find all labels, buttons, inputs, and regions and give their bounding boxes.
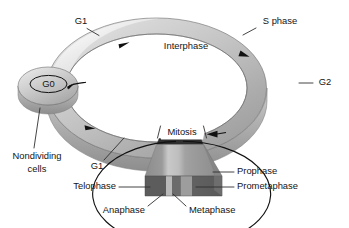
label-telophase-group: Telophase — [73, 180, 150, 191]
cycle-arrowhead-top-left — [119, 42, 130, 48]
label-g1-top: G1 — [75, 15, 88, 26]
leader-nondividing — [34, 108, 40, 148]
g0-satellite — [18, 67, 78, 114]
label-g2-group: G2 — [299, 76, 331, 87]
mitosis-label: Mitosis — [167, 126, 196, 137]
label-anaphase-group: Anaphase — [103, 194, 163, 215]
mitosis-label-group: Mitosis — [158, 125, 207, 140]
label-nondividing-line2: cells — [28, 163, 47, 174]
label-anaphase: Anaphase — [103, 204, 145, 215]
label-nondividing-line1: Nondividing — [13, 150, 62, 161]
label-s-phase: S phase — [263, 15, 297, 26]
label-g1-bottom: G1 — [91, 160, 104, 171]
mitosis-wedge-face — [145, 176, 222, 196]
label-prophase-group: Prophase — [213, 165, 277, 176]
label-prometaphase: Prometaphase — [237, 180, 298, 191]
label-metaphase-group: Metaphase — [173, 194, 235, 215]
ring-top-surface — [46, 18, 266, 158]
interphase-label: Interphase — [164, 40, 208, 51]
g0-label: G0 — [42, 78, 55, 89]
ring-inner-edge — [66, 34, 247, 142]
label-prophase: Prophase — [237, 165, 277, 176]
label-metaphase: Metaphase — [189, 204, 235, 215]
cell-cycle-diagram: Mitosis Interphase G0 G1 S phase G2 G1 — [0, 0, 349, 228]
label-telophase: Telophase — [73, 180, 116, 191]
label-s-phase-group: S phase — [243, 15, 297, 35]
leader-s-phase — [243, 28, 256, 35]
label-g2: G2 — [319, 76, 332, 87]
cell-cycle-figure: Mitosis Interphase G0 G1 S phase G2 G1 — [0, 0, 349, 228]
